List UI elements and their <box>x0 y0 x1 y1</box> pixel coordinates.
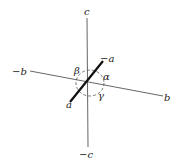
b-negative-label: −b <box>12 66 27 77</box>
a-negative-label: −a <box>100 53 114 64</box>
b-positive-label: b <box>164 92 170 103</box>
a-positive-label: a <box>66 99 72 110</box>
c-negative-label: −c <box>79 149 93 160</box>
c-axis-line <box>87 18 88 147</box>
alpha-label: α <box>103 71 110 82</box>
c-positive-label: c <box>84 6 90 17</box>
b-axis-line <box>30 71 163 96</box>
beta-label: β <box>73 65 80 76</box>
axes-diagram: c −c −b b −a a α β γ <box>0 0 182 167</box>
gamma-label: γ <box>98 90 104 101</box>
